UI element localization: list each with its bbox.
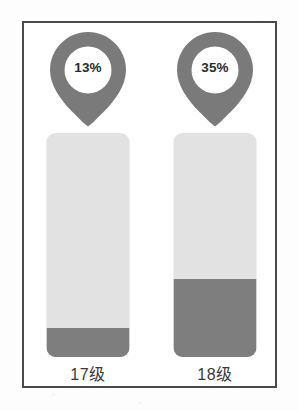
bar-track-17: [47, 133, 130, 357]
pin-value-17: 13%: [48, 60, 128, 75]
category-label-17: 17级: [24, 361, 152, 385]
bar-fill-17: [47, 328, 130, 357]
bar-track-18: [174, 133, 257, 357]
category-label-18: 18级: [151, 361, 279, 385]
chart-frame: 13% 17级 35% 18级: [22, 21, 277, 388]
map-pin-icon: [48, 30, 128, 128]
pin-marker-18: 35%: [175, 30, 255, 128]
map-pin-icon: [175, 30, 255, 128]
bar-column-17: 13% 17级: [24, 23, 152, 386]
pin-value-18: 35%: [175, 60, 255, 75]
infographic-canvas: 13% 17级 35% 18级: [0, 0, 298, 411]
bar-column-18: 35% 18级: [151, 23, 279, 386]
pin-marker-17: 13%: [48, 30, 128, 128]
bar-fill-18: [174, 279, 257, 357]
